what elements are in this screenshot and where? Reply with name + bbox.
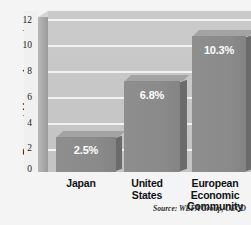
y-tick-label-8: 8 — [10, 66, 32, 76]
bar-japan-value: 2.5% — [56, 144, 116, 156]
bar-eec-front — [192, 36, 246, 172]
x-category-label-eec-line-1: European — [181, 178, 249, 190]
bar-united-states-value: 6.8% — [124, 89, 180, 101]
bar-united-states-side — [180, 80, 187, 172]
x-category-label-japan: Japan — [48, 178, 114, 190]
plot-area: 2.5% 6.8% 10.3% — [48, 11, 251, 172]
bar-eec-value: 10.3% — [190, 44, 248, 56]
y-tick-label-6: 6 — [10, 92, 32, 102]
x-category-label-united-states: United States — [116, 178, 178, 201]
x-category-label-japan-line-1: Japan — [48, 178, 114, 190]
source-note: Source: WEFA Group, OECD — [120, 204, 246, 213]
y-tick-label-2: 2 — [10, 143, 32, 153]
x-category-label-united-states-line-2: States — [116, 190, 178, 202]
x-category-label-united-states-line-1: United — [116, 178, 178, 190]
y-axis-wall — [38, 17, 48, 172]
y-tick-label-10: 10 — [10, 40, 32, 50]
bar-japan-side — [115, 136, 122, 172]
bar-chart: Percent Unemployment 12 10 8 6 4 2 0 2.5… — [0, 0, 251, 225]
y-tick-label-4: 4 — [10, 118, 32, 128]
y-tick-label-12: 12 — [10, 15, 32, 25]
gridline-12 — [48, 19, 251, 21]
y-tick-label-0: 0 — [10, 164, 32, 174]
